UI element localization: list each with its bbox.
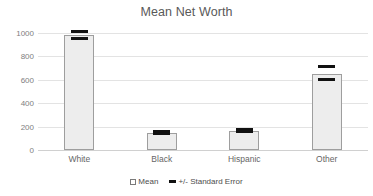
y-axis-tick-label: 400	[0, 99, 34, 108]
y-axis-tick-label: 0	[0, 146, 34, 155]
x-axis-label-other: Other	[316, 154, 337, 164]
error-cap-upper-white	[71, 30, 88, 33]
error-cap-lower-white	[71, 37, 88, 40]
legend-item: +/- Standard Error	[169, 177, 242, 186]
x-axis-label-hispanic: Hispanic	[228, 154, 261, 164]
chart-title: Mean Net Worth	[0, 5, 373, 19]
axis-baseline	[38, 150, 368, 151]
y-axis-tick-label: 1000	[0, 29, 34, 38]
y-axis-tick-label: 800	[0, 52, 34, 61]
y-axis-labels: 02004006008001000	[0, 33, 34, 150]
bar-hispanic	[229, 131, 259, 150]
legend-label: +/- Standard Error	[178, 177, 242, 186]
error-cap-lower-other	[318, 78, 335, 81]
bar-white	[64, 35, 94, 150]
y-axis-tick-label: 200	[0, 122, 34, 131]
dash-marker-icon	[169, 180, 176, 183]
error-cap-upper-other	[318, 65, 335, 68]
x-axis-label-black: Black	[151, 154, 172, 164]
plot-area	[38, 33, 368, 150]
bar-black	[147, 133, 177, 150]
error-cap-lower-black	[153, 132, 170, 135]
error-cap-lower-hispanic	[236, 130, 253, 133]
legend-item: Mean	[130, 177, 158, 186]
chart-legend: Mean+/- Standard Error	[0, 177, 373, 186]
chart-container: Mean Net Worth 02004006008001000 WhiteBl…	[0, 0, 373, 196]
square-marker-icon	[130, 179, 136, 185]
bar-other	[312, 74, 342, 150]
legend-label: Mean	[138, 177, 158, 186]
y-axis-tick-label: 600	[0, 75, 34, 84]
x-axis-label-white: White	[68, 154, 90, 164]
x-axis-labels: WhiteBlackHispanicOther	[38, 154, 368, 168]
